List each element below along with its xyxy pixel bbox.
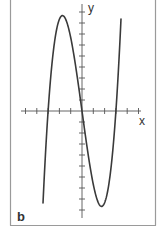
- panel-label: b: [17, 209, 25, 224]
- x-axis-label: x: [139, 114, 145, 128]
- y-axis-label: y: [88, 1, 94, 15]
